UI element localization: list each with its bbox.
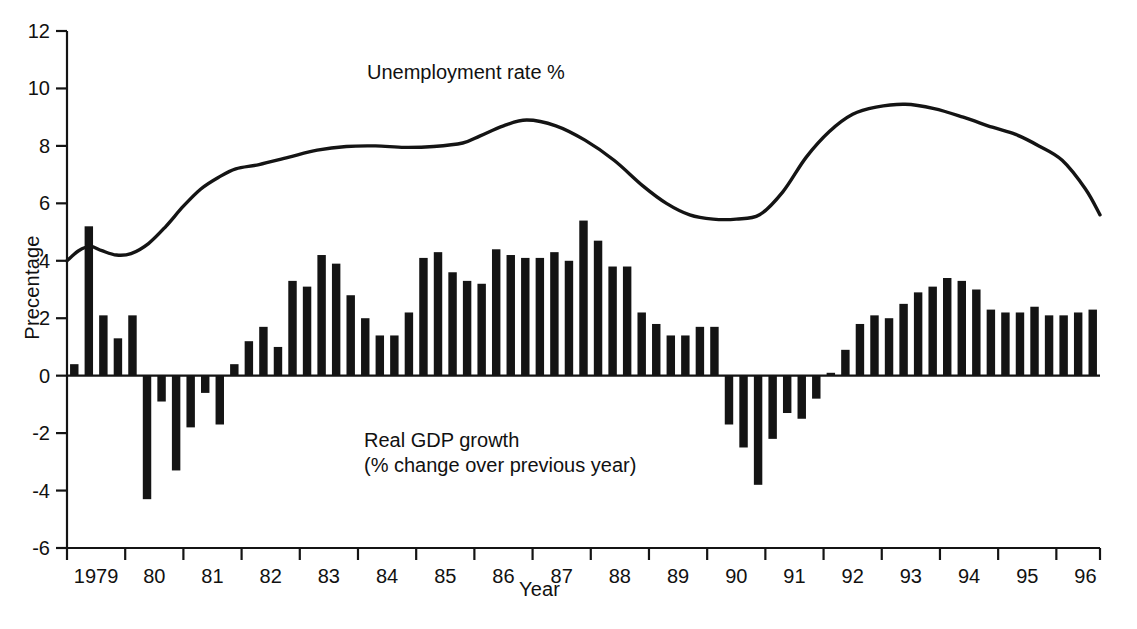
gdp-bar xyxy=(492,249,500,375)
x-tick-label: 1979 xyxy=(74,565,119,587)
gdp-bar xyxy=(346,295,354,375)
x-tick-label: 89 xyxy=(667,565,689,587)
gdp-series-label-line2: (% change over previous year) xyxy=(364,453,636,478)
gdp-bar xyxy=(463,281,471,376)
gdp-bar xyxy=(885,318,893,375)
gdp-bar xyxy=(1059,315,1067,375)
gdp-bar xyxy=(856,324,864,376)
gdp-series-label-line1: Real GDP growth xyxy=(364,428,636,453)
gdp-bar xyxy=(958,281,966,376)
gdp-bar xyxy=(987,310,995,376)
gdp-bar xyxy=(1045,315,1053,375)
y-tick-label: 8 xyxy=(39,135,50,157)
x-tick-label: 95 xyxy=(1016,565,1038,587)
gdp-bar xyxy=(99,315,107,375)
gdp-bar xyxy=(114,338,122,375)
gdp-bar xyxy=(317,255,325,376)
gdp-bar xyxy=(565,261,573,376)
x-tick-label: 86 xyxy=(492,565,514,587)
y-tick-label: -4 xyxy=(32,480,50,502)
x-tick-label: 82 xyxy=(260,565,282,587)
gdp-bar xyxy=(652,324,660,376)
gdp-bar xyxy=(594,241,602,376)
gdp-bar xyxy=(390,335,398,375)
x-tick-label: 93 xyxy=(900,565,922,587)
gdp-bar xyxy=(783,376,791,413)
gdp-bar xyxy=(1001,312,1009,375)
gdp-bar xyxy=(507,255,515,376)
gdp-bar xyxy=(157,376,165,402)
chart-plot-area: -6-4-2024681012 197980818283848586878889… xyxy=(0,0,1137,629)
gdp-bar xyxy=(434,252,442,376)
gdp-bar xyxy=(579,221,587,376)
gdp-bar xyxy=(725,376,733,425)
gdp-bar xyxy=(754,376,762,485)
x-tick-labels-group: 19798081828384858687888990919293949596 xyxy=(74,565,1097,587)
gdp-bar xyxy=(768,376,776,439)
gdp-bar xyxy=(361,318,369,375)
gdp-bar xyxy=(972,290,980,376)
gdp-bar xyxy=(739,376,747,448)
gdp-bar xyxy=(841,350,849,376)
x-tick-label: 94 xyxy=(958,565,980,587)
gdp-bar xyxy=(1089,310,1097,376)
gdp-bar xyxy=(405,312,413,375)
gdp-bar xyxy=(1030,307,1038,376)
gdp-bar xyxy=(667,335,675,375)
gdp-bar xyxy=(274,347,282,376)
gdp-bar xyxy=(812,376,820,399)
chart-figure: -6-4-2024681012 197980818283848586878889… xyxy=(0,0,1137,629)
y-axis-label: Precentage xyxy=(21,208,44,368)
gdp-bar xyxy=(230,364,238,375)
gdp-bar xyxy=(376,335,384,375)
x-tick-label: 84 xyxy=(376,565,398,587)
gdp-bar xyxy=(899,304,907,376)
x-tick-label: 80 xyxy=(143,565,165,587)
x-tick-label: 81 xyxy=(201,565,223,587)
y-tick-label: 0 xyxy=(39,365,50,387)
gdp-bar xyxy=(943,278,951,376)
gdp-bar xyxy=(1016,312,1024,375)
gdp-bar xyxy=(172,376,180,471)
gdp-bar xyxy=(696,327,704,376)
x-tick-label: 85 xyxy=(434,565,456,587)
gdp-bar xyxy=(419,258,427,376)
gdp-bar xyxy=(827,373,835,376)
gdp-bar xyxy=(448,272,456,375)
gdp-bar xyxy=(70,364,78,375)
gdp-series-label: Real GDP growth (% change over previous … xyxy=(364,428,636,478)
gdp-bar xyxy=(288,281,296,376)
x-axis-label: Year xyxy=(519,578,560,601)
unemployment-series-label: Unemployment rate % xyxy=(367,60,565,85)
gdp-bar xyxy=(259,327,267,376)
gdp-bar xyxy=(870,315,878,375)
x-tick-label: 90 xyxy=(725,565,747,587)
gdp-bar xyxy=(798,376,806,419)
gdp-bar xyxy=(637,312,645,375)
gdp-bar xyxy=(201,376,209,393)
y-tick-label: -6 xyxy=(32,537,50,559)
gdp-bar xyxy=(186,376,194,428)
gdp-bar xyxy=(477,284,485,376)
gdp-bar xyxy=(536,258,544,376)
y-tick-label: 12 xyxy=(28,20,50,42)
gdp-bar xyxy=(550,252,558,376)
x-tick-label: 83 xyxy=(318,565,340,587)
gdp-bar xyxy=(914,292,922,375)
y-tick-label: -2 xyxy=(32,422,50,444)
gdp-bar xyxy=(245,341,253,375)
gdp-bar xyxy=(1074,312,1082,375)
gdp-bar xyxy=(143,376,151,500)
gdp-bar xyxy=(216,376,224,425)
x-tick-label: 88 xyxy=(609,565,631,587)
gdp-bar xyxy=(521,258,529,376)
gdp-bar xyxy=(608,267,616,376)
gdp-bar xyxy=(623,267,631,376)
x-tick-label: 92 xyxy=(842,565,864,587)
gdp-bar xyxy=(928,287,936,376)
y-tick-label: 10 xyxy=(28,77,50,99)
gdp-bar xyxy=(710,327,718,376)
gdp-bar xyxy=(128,315,136,375)
gdp-bar xyxy=(332,264,340,376)
x-tick-label: 91 xyxy=(783,565,805,587)
